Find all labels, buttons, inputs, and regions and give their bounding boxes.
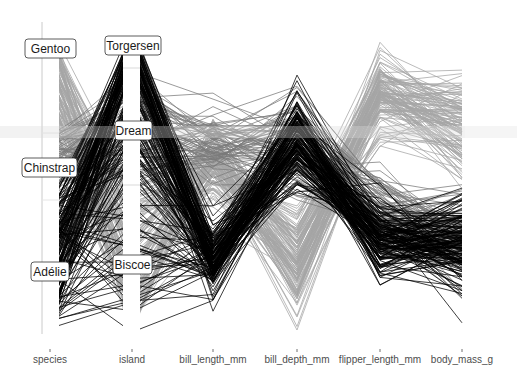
- island-axis: [123, 22, 140, 334]
- label-torgersen: Torgersen: [105, 36, 161, 55]
- axis-label-body-mass: body_mass_g: [431, 354, 493, 365]
- label-chinstrap: Chinstrap: [22, 158, 77, 177]
- label-gentoo: Gentoo: [25, 39, 76, 58]
- label-biscoe-text: Biscoe: [114, 258, 150, 272]
- axis-label-island: island: [119, 354, 145, 365]
- axis-label-bill-depth: bill_depth_mm: [264, 354, 329, 365]
- axis-label-bill-length: bill_length_mm: [179, 354, 246, 365]
- x-axis: species island bill_length_mm bill_depth…: [33, 349, 493, 365]
- label-gentoo-text: Gentoo: [31, 42, 71, 56]
- axis-label-flipper-length: flipper_length_mm: [339, 354, 421, 365]
- species-axis-bar: [42, 22, 59, 334]
- species-axis: [42, 22, 59, 334]
- label-torgersen-text: Torgersen: [106, 39, 159, 53]
- label-adelie-text: Adélie: [33, 265, 67, 279]
- axis-label-species: species: [33, 354, 67, 365]
- label-adelie: Adélie: [31, 262, 69, 281]
- island-axis-bar: [123, 22, 140, 334]
- right-fade-overlay: [465, 0, 517, 330]
- highlight-band: [0, 126, 517, 138]
- parallel-coordinates-plot: Gentoo Chinstrap Adélie Torgersen Dream …: [0, 0, 517, 382]
- label-chinstrap-text: Chinstrap: [24, 161, 76, 175]
- label-biscoe: Biscoe: [113, 255, 152, 274]
- label-dream: Dream: [115, 121, 152, 140]
- label-dream-text: Dream: [115, 124, 151, 138]
- data-lines: [50, 22, 462, 333]
